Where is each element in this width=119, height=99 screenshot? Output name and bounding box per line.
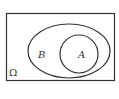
set-b-label: B: [37, 49, 45, 60]
universe-label: Ω: [9, 67, 17, 78]
set-a-label: A: [77, 49, 85, 60]
venn-diagram: B A Ω: [0, 0, 119, 99]
